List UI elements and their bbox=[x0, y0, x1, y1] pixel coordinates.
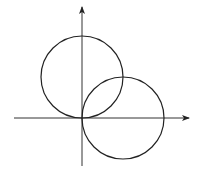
circles-group bbox=[41, 36, 164, 159]
diagram-canvas bbox=[0, 0, 200, 173]
